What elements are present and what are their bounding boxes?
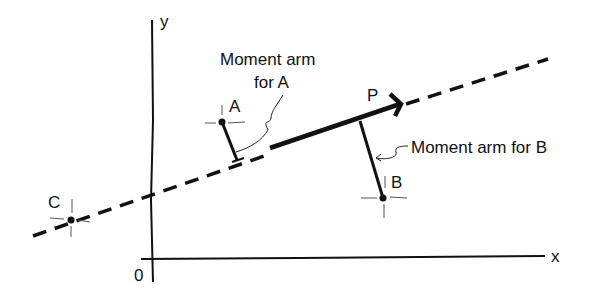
leader-arm-a [236, 95, 283, 152]
x-axis-label: x [551, 247, 560, 266]
moment-arm-b [360, 121, 383, 198]
y-axis-label: y [160, 12, 169, 31]
arm-a-label-line2: for A [254, 73, 290, 92]
y-axis [151, 20, 153, 282]
origin-label: 0 [134, 266, 143, 285]
x-axis [141, 256, 545, 259]
force-label: P [367, 86, 378, 105]
leader-arm-b [376, 146, 408, 161]
moment-arm-a [222, 122, 244, 162]
point-b-label: B [391, 173, 402, 192]
moment-arm-diagram: y x 0 P A B C [0, 0, 602, 300]
arm-b-label: Moment arm for B [411, 138, 547, 157]
point-a-label: A [229, 97, 241, 116]
arm-a-label-line1: Moment arm [220, 50, 315, 69]
force-vector-p [270, 94, 401, 148]
point-c-label: C [48, 193, 60, 212]
